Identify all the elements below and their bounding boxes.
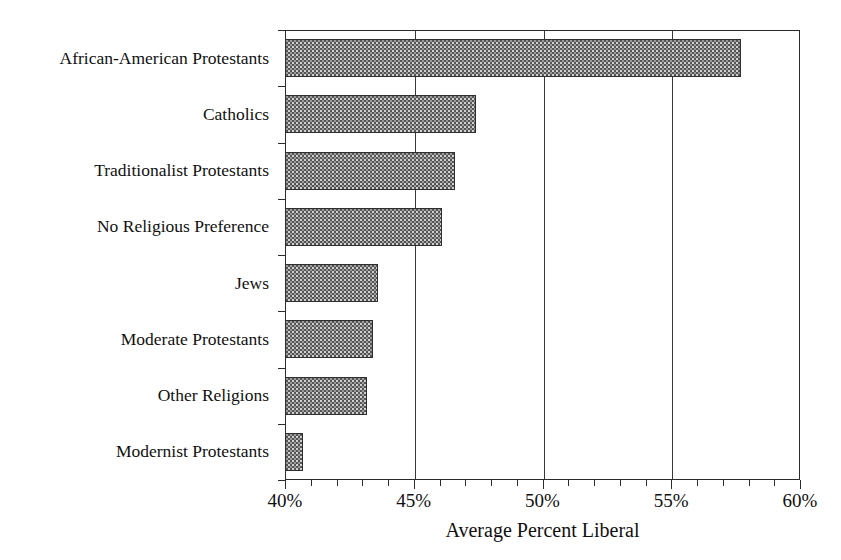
bar-row — [285, 255, 800, 311]
x-axis-tick-label: 40% — [268, 490, 303, 512]
bar-no-religious-preference[interactable] — [285, 208, 442, 246]
category-label-moderate-protestants: Moderate Protestants — [0, 311, 277, 367]
x-axis-tick-label: 50% — [525, 490, 560, 512]
y-axis-tick — [278, 368, 286, 369]
category-label-no-religious-preference: No Religious Preference — [0, 199, 277, 255]
bar-row — [285, 30, 800, 86]
x-axis-tick-minor — [749, 480, 750, 486]
x-axis-tick-minor — [491, 480, 492, 486]
bar-row — [285, 368, 800, 424]
bar-catholics[interactable] — [285, 95, 476, 133]
x-axis-tick-label: 45% — [396, 490, 431, 512]
bar-row — [285, 199, 800, 255]
bar-jews[interactable] — [285, 264, 378, 302]
x-axis-tick-major — [543, 480, 544, 489]
category-label-catholics: Catholics — [0, 86, 277, 142]
bar-row — [285, 424, 800, 480]
category-label-jews: Jews — [0, 255, 277, 311]
y-axis-tick — [278, 199, 286, 200]
y-axis-tick — [278, 30, 286, 31]
x-axis-tick-major — [671, 480, 672, 489]
bars-layer — [285, 30, 800, 480]
y-axis-tick — [278, 255, 286, 256]
bar-chart: African-American Protestants Catholics T… — [0, 0, 841, 560]
y-axis-tick — [278, 311, 286, 312]
x-axis-tick-minor — [620, 480, 621, 486]
category-label-modernist-protestants: Modernist Protestants — [0, 424, 277, 480]
x-axis-tick-minor — [362, 480, 363, 486]
y-axis-tick — [278, 86, 286, 87]
x-axis-title: Average Percent Liberal — [285, 519, 800, 542]
x-axis-tick-minor — [388, 480, 389, 486]
bar-moderate-protestants[interactable] — [285, 320, 373, 358]
x-axis-tick-major — [800, 480, 801, 489]
bar-row — [285, 311, 800, 367]
x-axis-tick-label: 60% — [783, 490, 818, 512]
x-axis-tick-minor — [723, 480, 724, 486]
bar-other-religions[interactable] — [285, 377, 367, 415]
x-axis-tick-minor — [646, 480, 647, 486]
x-axis-tick-minor — [697, 480, 698, 486]
category-label-african-american-protestants: African-American Protestants — [0, 30, 277, 86]
x-axis-tick-minor — [517, 480, 518, 486]
bar-african-american-protestants[interactable] — [285, 39, 741, 77]
bar-row — [285, 86, 800, 142]
x-axis-tick-minor — [568, 480, 569, 486]
y-axis-tick — [278, 143, 286, 144]
category-label-other-religions: Other Religions — [0, 368, 277, 424]
bar-modernist-protestants[interactable] — [285, 433, 303, 471]
x-axis-tick-minor — [594, 480, 595, 486]
bar-traditionalist-protestants[interactable] — [285, 152, 455, 190]
category-label-traditionalist-protestants: Traditionalist Protestants — [0, 143, 277, 199]
bar-row — [285, 143, 800, 199]
x-axis-tick-minor — [440, 480, 441, 486]
y-axis-tick — [278, 424, 286, 425]
x-axis-tick-minor — [337, 480, 338, 486]
x-axis-tick-label: 55% — [654, 490, 689, 512]
x-axis-tick-major — [285, 480, 286, 489]
x-axis-tick-minor — [311, 480, 312, 486]
x-axis-tick-major — [414, 480, 415, 489]
x-axis-tick-minor — [465, 480, 466, 486]
category-labels: African-American Protestants Catholics T… — [0, 30, 277, 480]
x-axis-tick-minor — [774, 480, 775, 486]
